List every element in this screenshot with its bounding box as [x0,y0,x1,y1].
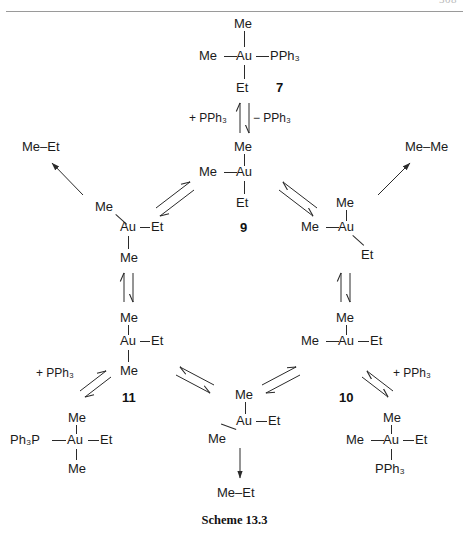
left-upper-diag-me-label: Me [95,200,113,213]
product-bottom-center: Me–Et [217,486,255,499]
bottom-right-bond-right [403,440,414,441]
left-upper-bond-right [140,227,150,228]
equilibrium-9-left-upper [156,182,194,216]
equilibrium-11-bottom-left [80,371,111,397]
structure-7-top-label: Me [234,17,252,30]
structure-7-number: 7 [276,81,283,94]
structure-10-right-label: Et [370,334,382,347]
structure-11-right-label: Et [151,334,163,347]
bottom-left-bond-bottom [76,449,77,460]
bottom-left-center-label: Au [67,433,83,446]
right-upper-center-label: Au [338,220,354,233]
equilibrium-9-right-upper [279,182,317,216]
structure-11-bond-bottom [128,350,129,362]
structure-9-left-label: Me [199,165,217,178]
structure-7-bond-right [256,56,269,57]
bottom-left-bottom-label: Me [68,462,86,475]
arrow-to-product-upper-left [52,163,83,195]
bottom-center-top-label: Me [235,388,253,401]
structure-11-number: 11 [122,391,136,404]
bottom-center-bond-diag [221,424,236,430]
bottom-left-top-label: Me [68,411,86,424]
bottom-right-top-label: Me [383,411,401,424]
bottom-left-bond-right [88,440,99,441]
right-upper-left-label: Me [301,220,319,233]
bottom-right-left-label: Me [346,433,364,446]
reagent-top-right: − PPh₃ [253,112,291,124]
header-rule [6,11,463,12]
equilibrium-10-bottom-right [362,371,393,397]
reagent-bottom-left: + PPh₃ [36,367,74,379]
arrow-to-product-upper-right [378,163,410,195]
structure-11-center-label: Au [120,334,136,347]
bottom-right-bottom-label: PPh₃ [375,462,405,475]
structure-10-number: 10 [339,391,353,404]
reagent-bottom-right: + PPh₃ [393,367,431,379]
reagent-top-left: + PPh₃ [189,112,227,124]
bottom-center-bond-right [256,421,267,422]
bottom-left-bond-left [52,440,66,441]
equilibrium-right-upper-10 [341,273,350,302]
structure-7-left-label: Me [199,49,217,62]
equilibrium-7-9 [240,103,249,133]
left-upper-bottom-label: Me [120,251,138,264]
right-upper-diag-et-label: Et [361,248,373,261]
structure-7-center-label: Au [236,49,252,62]
bottom-left-left-label: Ph₃P [10,433,40,446]
scheme-caption: Scheme 13.3 [0,513,469,528]
bottom-right-bond-bottom [391,449,392,460]
page-number: 308 [439,0,457,5]
structure-11-bond-right [140,341,150,342]
bottom-right-center-label: Au [383,433,399,446]
equilibrium-11-bottom-center [176,367,214,393]
structure-11-bottom-label: Me [120,364,138,377]
product-upper-left: Me–Et [22,140,60,153]
structure-9-bottom-label: Et [236,196,248,209]
structure-10-left-label: Me [301,334,319,347]
structure-9-bond-bottom [244,181,245,194]
bottom-left-right-label: Et [100,433,112,446]
equilibrium-10-bottom-center [262,367,300,393]
scheme-page: 308 Me Me Au PPh₃ Et 7 + PPh₃ − PPh₃ Me … [0,0,469,545]
bottom-right-right-label: Et [415,433,427,446]
left-upper-right-label: Et [151,220,163,233]
structure-10-bond-right [358,341,369,342]
structure-9-center-label: Au [236,165,252,178]
structure-7-right-label: PPh₃ [270,49,300,62]
left-upper-bond-bottom [128,236,129,249]
structure-9-number: 9 [240,221,247,234]
bottom-center-diag-me-label: Me [208,432,226,445]
structure-9-top-label: Me [234,140,252,153]
right-upper-top-label: Me [336,196,354,209]
structure-7-bottom-label: Et [236,81,248,94]
left-upper-center-label: Au [120,220,136,233]
right-upper-bond-diag [352,235,364,246]
structure-10-top-label: Me [336,311,354,324]
product-upper-right: Me–Me [405,140,448,153]
bottom-center-right-label: Et [268,414,280,427]
structure-7-bond-top [244,31,245,47]
bottom-center-center-label: Au [236,414,252,427]
structure-11-top-label: Me [120,311,138,324]
equilibrium-left-upper-11 [124,273,133,302]
structure-7-bond-bottom [244,65,245,79]
structure-10-center-label: Au [338,334,354,347]
